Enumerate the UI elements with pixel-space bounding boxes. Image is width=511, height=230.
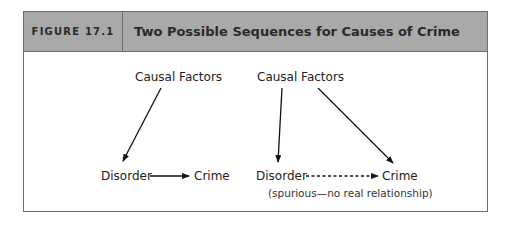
left-disorder-node: Disorder	[101, 169, 152, 183]
right-crime-node: Crime	[382, 169, 418, 183]
left-causal-factors-node: Causal Factors	[135, 70, 222, 84]
right-disorder-node: Disorder	[256, 169, 307, 183]
arrows-layer	[0, 0, 511, 230]
arrow-left-causal-to-disorder	[123, 88, 161, 161]
spurious-note: (spurious—no real relationship)	[268, 187, 433, 199]
right-causal-factors-node: Causal Factors	[257, 70, 344, 84]
left-crime-node: Crime	[194, 169, 230, 183]
arrow-right-causal-to-crime	[318, 88, 393, 163]
arrow-right-causal-to-disorder	[278, 88, 282, 162]
